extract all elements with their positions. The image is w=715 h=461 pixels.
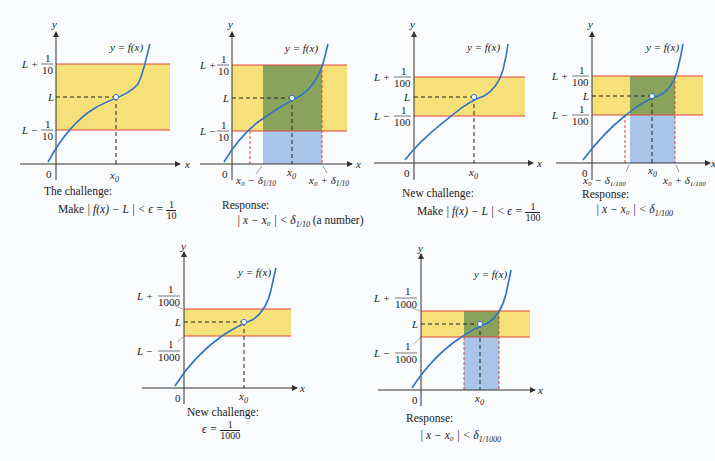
- caption-title-5: New challenge:: [187, 405, 259, 419]
- L-label: L: [47, 91, 54, 103]
- svg-text:x: x: [537, 384, 543, 396]
- svg-text:100: 100: [394, 77, 411, 89]
- svg-text:L −: L −: [373, 110, 390, 122]
- svg-text:L: L: [403, 91, 410, 103]
- svg-text:1: 1: [45, 118, 51, 130]
- right-delta-tick-label: x₀ + δ1/10: [308, 174, 349, 188]
- svg-text:L −: L −: [136, 345, 153, 357]
- svg-text:0: 0: [222, 168, 228, 180]
- svg-text:10: 10: [42, 130, 54, 142]
- caption-title-6: Response:: [406, 411, 453, 425]
- caption-title-2: Response:: [222, 198, 269, 212]
- svg-text:x: x: [355, 158, 361, 170]
- svg-text:y: y: [417, 242, 423, 254]
- panel-response-1-10: y x 0 x0 y = f(x) L L + 1 10 L − 1 10 x₀…: [199, 18, 361, 188]
- svg-text:L: L: [222, 92, 229, 104]
- svg-text:1: 1: [579, 103, 585, 115]
- svg-text:y = f(x): y = f(x): [645, 41, 679, 54]
- svg-text:L +: L +: [373, 292, 390, 304]
- curve-label: y = f(x): [109, 41, 143, 54]
- svg-text:0: 0: [175, 392, 181, 404]
- svg-text:1: 1: [405, 340, 411, 352]
- svg-text:x: x: [710, 157, 715, 169]
- svg-text:y: y: [180, 240, 186, 252]
- svg-text:y: y: [409, 18, 415, 30]
- caption-expr-2: | x − x₀ | < δ1/10 (a number): [237, 213, 364, 232]
- svg-text:100: 100: [572, 76, 589, 88]
- caption-title-1: The challenge:: [44, 184, 112, 198]
- svg-text:1: 1: [401, 65, 407, 77]
- origin-label: 0: [46, 168, 52, 180]
- upper-bound-label: L +: [21, 58, 38, 70]
- svg-text:1000: 1000: [395, 353, 418, 365]
- svg-text:0: 0: [404, 167, 410, 179]
- svg-text:L +: L +: [199, 59, 216, 71]
- caption-title-4: Response:: [582, 187, 629, 201]
- panel-response-1-100: y x 0 x0 y = f(x) L L + 1 100 L − 1 100 …: [551, 18, 715, 188]
- panel-response-1-1000: y x 0 x0 y = f(x) L L + 1 1000 L − 1 100…: [373, 242, 543, 407]
- svg-text:0: 0: [412, 394, 418, 406]
- svg-text:y = f(x): y = f(x): [237, 266, 271, 279]
- lower-bound-label: L −: [21, 124, 38, 136]
- svg-text:L: L: [582, 90, 589, 102]
- svg-text:1: 1: [401, 104, 407, 116]
- svg-text:100: 100: [394, 116, 411, 128]
- svg-text:x0: x0: [468, 166, 478, 181]
- x-axis-label: x: [184, 158, 190, 170]
- caption-title-3: New challenge:: [402, 186, 474, 200]
- svg-text:x0: x0: [286, 166, 296, 181]
- caption-expr-1: Make | f(x) − L | < ϵ = 110: [58, 200, 176, 221]
- svg-text:x: x: [536, 157, 542, 169]
- svg-text:1: 1: [168, 283, 174, 295]
- svg-text:y: y: [227, 18, 233, 30]
- svg-text:1000: 1000: [158, 351, 181, 363]
- svg-text:x0: x0: [647, 164, 657, 179]
- x0-label: x0: [109, 169, 119, 184]
- svg-text:y: y: [587, 18, 593, 30]
- caption-expr-5: ϵ = 11000: [202, 420, 240, 441]
- svg-text:10: 10: [42, 64, 54, 76]
- limit-point: [113, 94, 118, 99]
- svg-text:L: L: [411, 318, 418, 330]
- svg-text:x: x: [299, 382, 305, 394]
- svg-text:L −: L −: [199, 125, 216, 137]
- svg-text:y = f(x): y = f(x): [466, 41, 500, 54]
- caption-expr-4: | x − x₀ | < δ1/100: [596, 202, 673, 221]
- caption-expr-3: Make | f(x) − L | < ϵ = 1100: [417, 202, 540, 223]
- panel-challenge-1-1000: y x 0 x0 y = f(x) L L + 1 1000 L − 1 100…: [136, 240, 305, 405]
- svg-text:L +: L +: [136, 290, 153, 302]
- panel-challenge-1-10: y x 0 x0 y = f(x) L L + 1 10 L − 1 10: [20, 18, 190, 184]
- panel-challenge-1-100: y x 0 x0 y = f(x) L L + 1 100 L − 1 100: [373, 18, 542, 181]
- left-delta-tick-label: x₀ − δ1/10: [235, 174, 276, 188]
- svg-text:L −: L −: [373, 347, 390, 359]
- svg-text:1: 1: [45, 52, 51, 64]
- svg-text:y = f(x): y = f(x): [284, 42, 318, 55]
- svg-text:x0: x0: [238, 390, 248, 405]
- svg-text:1000: 1000: [158, 296, 181, 308]
- svg-text:100: 100: [572, 115, 589, 127]
- svg-text:1: 1: [221, 53, 227, 65]
- svg-text:x₀ + δ1/100: x₀ + δ1/100: [662, 174, 706, 188]
- svg-text:1: 1: [168, 338, 174, 350]
- svg-text:L +: L +: [373, 71, 390, 83]
- svg-text:1: 1: [579, 64, 585, 76]
- svg-text:x0: x0: [474, 392, 484, 407]
- y-axis-label: y: [51, 18, 57, 30]
- svg-text:y = f(x): y = f(x): [473, 268, 507, 281]
- svg-text:L: L: [174, 316, 181, 328]
- caption-expr-6: | x − x₀ | < δ1/1000: [420, 428, 501, 447]
- svg-text:L −: L −: [551, 109, 568, 121]
- svg-text:1000: 1000: [395, 298, 418, 310]
- svg-text:x₀ − δ1/100: x₀ − δ1/100: [582, 174, 626, 188]
- svg-text:10: 10: [218, 131, 230, 143]
- svg-text:1: 1: [221, 119, 227, 131]
- svg-text:L +: L +: [551, 70, 568, 82]
- svg-text:1: 1: [405, 285, 411, 297]
- svg-text:10: 10: [218, 65, 230, 77]
